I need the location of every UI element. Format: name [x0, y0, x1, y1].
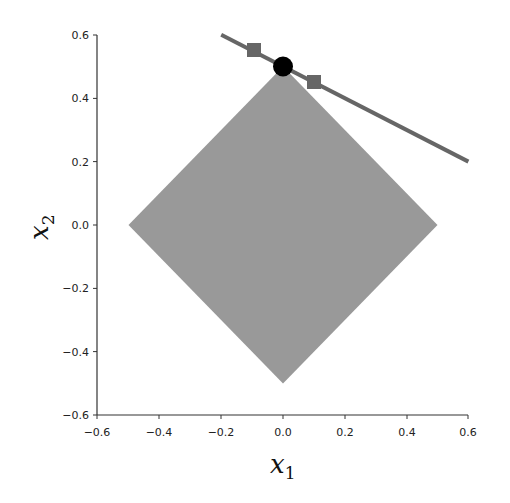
diamond-region [129, 67, 438, 384]
y-tick-label: −0.6 [62, 409, 89, 422]
x-tick-label: 0.0 [274, 426, 292, 439]
y-tick-label: −0.2 [62, 282, 89, 295]
y-tick-label: 0.4 [72, 92, 90, 105]
y-axis-label: x2 [24, 215, 58, 241]
y-tick-label: −0.4 [62, 346, 89, 359]
x-axis: −0.6 −0.4 −0.2 0.0 0.2 0.4 0.6 [84, 415, 477, 439]
square-marker-left [247, 43, 261, 57]
solution-point [273, 57, 293, 77]
x-tick-label: 0.4 [398, 426, 416, 439]
x-tick-label: −0.4 [146, 426, 173, 439]
x-tick-label: 0.6 [459, 426, 477, 439]
plot-area [129, 35, 469, 384]
x-tick-label: −0.6 [84, 426, 111, 439]
y-axis: 0.6 0.4 0.2 0.0 −0.2 −0.4 −0.6 [62, 29, 97, 422]
chart: 0.6 0.4 0.2 0.0 −0.2 −0.4 −0.6 −0.6 −0.4… [0, 0, 510, 503]
x-axis-label: x1 [270, 449, 296, 483]
y-tick-label: 0.0 [72, 219, 90, 232]
y-tick-label: 0.6 [72, 29, 90, 42]
x-tick-label: 0.2 [336, 426, 354, 439]
x-tick-label: −0.2 [208, 426, 235, 439]
square-marker-right [307, 75, 321, 89]
y-tick-label: 0.2 [72, 156, 90, 169]
